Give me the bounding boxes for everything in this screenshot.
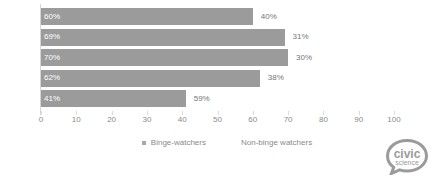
bar-segment-binge: 62% bbox=[41, 70, 260, 87]
x-axis-tick-label: 0 bbox=[39, 116, 43, 124]
x-axis-tick-label: 30 bbox=[142, 116, 151, 124]
x-axis-tick-label: 50 bbox=[213, 116, 222, 124]
x-axis-tick-label: 70 bbox=[284, 116, 293, 124]
bar-value-label-outside: 31% bbox=[293, 33, 309, 41]
bar-value-label-outside: 38% bbox=[268, 74, 284, 82]
bar-value-label-inside: 41% bbox=[44, 95, 60, 103]
bar-segment-binge: 70% bbox=[41, 49, 288, 66]
plot-area: 13-1760%40%18-2969%31%30-4470%30%45-6462… bbox=[41, 8, 394, 111]
legend-swatch-icon bbox=[142, 141, 146, 145]
bar-row: 69%31% bbox=[41, 29, 394, 46]
x-axis-tick-label: 100 bbox=[387, 116, 400, 124]
bar-segment-binge: 69% bbox=[41, 29, 285, 46]
bar-value-label-outside: 30% bbox=[296, 54, 312, 62]
bar-segment-binge: 41% bbox=[41, 90, 186, 107]
logo-line2: science bbox=[395, 159, 419, 166]
legend-item-non-binge-watchers: Non-binge watchers bbox=[236, 139, 312, 147]
bar-row: 60%40% bbox=[41, 8, 394, 25]
chart-legend: Binge-watchers Non-binge watchers bbox=[0, 136, 434, 150]
legend-item-binge-watchers: Binge-watchers bbox=[142, 139, 206, 147]
binge-watching-by-age-chart: 13-1760%40%18-2969%31%30-4470%30%45-6462… bbox=[0, 0, 434, 181]
x-axis: 0102030405060708090100 bbox=[41, 111, 394, 133]
x-axis-tick-label: 90 bbox=[354, 116, 363, 124]
x-axis-tick-label: 40 bbox=[178, 116, 187, 124]
bar-row: 62%38% bbox=[41, 70, 394, 87]
bar-row: 70%30% bbox=[41, 49, 394, 66]
x-axis-tick-label: 80 bbox=[319, 116, 328, 124]
bar-segment-binge: 60% bbox=[41, 8, 253, 25]
bar-value-label-inside: 60% bbox=[44, 13, 60, 21]
legend-label: Binge-watchers bbox=[151, 139, 206, 147]
civic-science-logo: civic science bbox=[386, 139, 428, 175]
bar-value-label-outside: 59% bbox=[194, 95, 210, 103]
x-axis-tick-label: 60 bbox=[248, 116, 257, 124]
bar-value-label-outside: 40% bbox=[261, 13, 277, 21]
bar-value-label-inside: 69% bbox=[44, 33, 60, 41]
x-axis-tick-label: 20 bbox=[107, 116, 116, 124]
bar-value-label-inside: 62% bbox=[44, 74, 60, 82]
bar-row: 41%59% bbox=[41, 90, 394, 107]
legend-label: Non-binge watchers bbox=[241, 139, 312, 147]
x-axis-tick-label: 10 bbox=[72, 116, 81, 124]
bar-value-label-inside: 70% bbox=[44, 54, 60, 62]
